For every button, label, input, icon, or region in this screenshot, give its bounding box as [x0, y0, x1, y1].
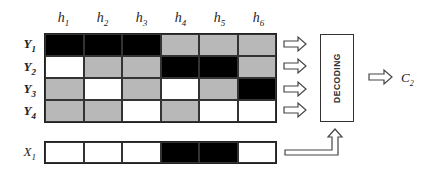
right-arrow-icon: [284, 103, 306, 117]
right-arrow-icon: [369, 70, 392, 84]
right-arrow-icon: [284, 82, 306, 96]
output-label: C2: [401, 70, 414, 88]
right-arrow-icon: [284, 37, 306, 51]
right-arrow-icon: [284, 59, 306, 73]
decoding-box: DECODING: [320, 34, 354, 122]
elbow-up-arrow-icon: [285, 129, 342, 155]
arrows-layer: [0, 0, 439, 175]
decoding-label: DECODING: [332, 53, 342, 103]
